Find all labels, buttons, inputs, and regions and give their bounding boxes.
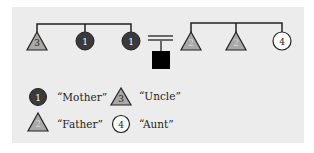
mother-circle-icon: 1 [76,32,94,50]
svg-text:1: 1 [35,93,41,103]
svg-text:1: 1 [128,37,134,47]
aunt-circle-icon: 4 [273,32,291,50]
affected-child-square-icon [152,51,170,69]
svg-text:1: 1 [82,37,88,47]
father-triangle-icon: 2 [226,32,246,50]
svg-text:“Father”: “Father” [57,118,103,130]
legend-item-aunt: 4 “Aunt” [113,116,174,133]
marriage-line [148,36,173,51]
left-sibship: 3 1 1 [27,24,140,50]
svg-text:3: 3 [118,94,124,104]
svg-text:2: 2 [188,38,194,48]
legend-item-mother: 1 “Mother” [30,89,108,106]
svg-text:“Aunt”: “Aunt” [139,118,174,130]
svg-text:4: 4 [118,120,124,130]
svg-text:“Mother”: “Mother” [57,91,107,103]
pedigree-diagram: 3 1 1 2 2 4 [0,0,314,153]
svg-text:3: 3 [34,38,40,48]
right-sibship: 2 2 4 [181,23,291,50]
svg-text:2: 2 [35,119,41,129]
svg-text:4: 4 [279,37,285,47]
uncle-triangle-icon: 3 [27,32,47,50]
father-triangle-icon: 2 [181,32,201,50]
svg-text:“Uncle”: “Uncle” [139,90,181,102]
legend-item-father: 2 “Father” [28,113,103,131]
mother-circle-icon: 1 [122,32,140,50]
legend: 1 “Mother” 3 “Uncle” 2 “Father” 4 “Aunt” [28,88,181,133]
legend-item-uncle: 3 “Uncle” [111,88,181,105]
svg-text:2: 2 [233,38,239,48]
